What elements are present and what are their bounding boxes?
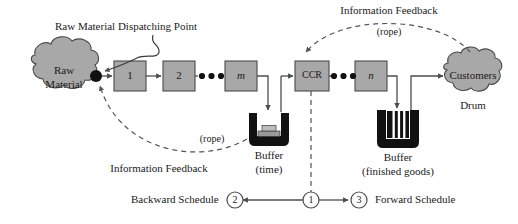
workstation-label-m: m [237, 70, 245, 81]
raw-material-label-line2: Material [45, 79, 82, 90]
workstation-label-2: 2 [176, 70, 182, 81]
backward-schedule-label: Backward Schedule [131, 194, 219, 205]
raw-material-label-line1: Raw [54, 65, 74, 76]
rope-bottom-label: (rope) [200, 134, 224, 144]
marker-one-label: 1 [309, 195, 314, 205]
time-buffer-icon [249, 113, 289, 146]
information-feedback-top-label: Information Feedback [340, 5, 437, 16]
raw-material-dispatching-point [90, 70, 102, 82]
workstation-label-ccr: CCR [302, 70, 322, 80]
raw-material-dispatching-point-label: Raw Material Dispatching Point [55, 21, 197, 32]
n-to-buffer-path [387, 76, 397, 108]
information-feedback-rope-bottom [100, 86, 247, 152]
m-to-buffer-path [257, 76, 268, 110]
workstation-label-1: 1 [127, 70, 133, 81]
drum-label: Drum [460, 100, 486, 111]
buffer-to-customers-path [411, 76, 443, 112]
forward-schedule-label: Forward Schedule [375, 194, 455, 205]
finished-goods-buffer-icon [377, 110, 419, 148]
ellipsis-dots-left [199, 73, 224, 79]
marker-three-label: 3 [357, 195, 362, 205]
finished-goods-buffer-label-line2: (finished goods) [362, 166, 434, 177]
time-buffer-label-line2: (time) [256, 164, 283, 175]
figure-canvas: Raw Material Dispatching Point Informati… [0, 0, 518, 224]
customers-label: Customers [449, 70, 496, 81]
workstation-label-n: n [368, 70, 374, 81]
information-feedback-bottom-label: Information Feedback [110, 163, 207, 174]
rope-top-label: (rope) [377, 27, 401, 37]
diagram-svg [0, 0, 518, 224]
finished-goods-buffer-label-line1: Buffer [384, 152, 413, 163]
ellipsis-dots-right [331, 73, 356, 79]
time-buffer-label-line1: Buffer [255, 150, 284, 161]
marker-two-label: 2 [233, 195, 238, 205]
